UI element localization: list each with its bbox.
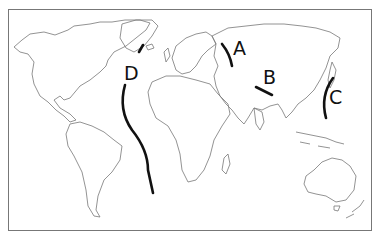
label-b: B [263,68,276,87]
south-america-outline [66,122,122,217]
australia-outline [304,158,356,202]
line-b [256,87,272,95]
india-outline [254,108,264,130]
labeled-lines [123,44,333,193]
label-c: C [329,88,342,107]
britain-outline [164,48,170,62]
line-d-upper [139,45,143,52]
line-d-lower [123,85,153,193]
continent-outlines [14,20,364,218]
indonesia-outline [296,132,344,148]
africa-outline [148,76,230,182]
label-d: D [124,64,139,83]
world-map [0,0,378,237]
tasmania-outline [334,206,340,211]
madagascar-outline [222,154,230,174]
new-zealand-outline [346,200,364,218]
europe-outline [172,32,216,74]
label-a: A [233,39,246,58]
line-a [222,44,232,66]
iceland-outline [146,44,154,50]
